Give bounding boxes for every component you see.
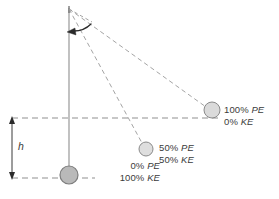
energy-label-top-right-pe: 100% PE [224, 104, 265, 116]
pendulum-energy-diagram: 100% PE 0% KE 50% PE 50% KE 0% PE 100% K… [0, 0, 279, 199]
swing-angle-arrowhead [67, 28, 76, 35]
energy-label-top-right-ke: 0% KE [224, 116, 265, 128]
bob-middle [139, 142, 153, 156]
height-label: h [18, 141, 24, 153]
energy-label-middle: 50% PE 50% KE [159, 142, 194, 165]
energy-label-bottom: 0% PE 100% KE [92, 160, 160, 183]
energy-label-top-right: 100% PE 0% KE [224, 104, 265, 127]
energy-label-bottom-pe: 0% PE [92, 160, 160, 172]
bob-bottom [60, 166, 78, 184]
bob-top-right [204, 102, 220, 118]
energy-unit-token: PE [181, 142, 194, 153]
energy-label-middle-ke: 50% KE [159, 154, 194, 166]
energy-unit-token: PE [147, 160, 160, 171]
energy-unit-token: KE [181, 154, 194, 165]
energy-unit-token: KE [241, 116, 254, 127]
swing-line-to-middle-bob [69, 9, 142, 143]
energy-unit-token: PE [251, 104, 264, 115]
height-arrow-head-up [9, 116, 15, 124]
energy-label-middle-pe: 50% PE [159, 142, 194, 154]
height-arrow-head-down [9, 172, 15, 180]
swing-line-to-top-right-bob [69, 9, 206, 107]
energy-label-bottom-ke: 100% KE [92, 172, 160, 184]
swing-angle-arc [74, 24, 91, 31]
energy-unit-token: KE [147, 172, 160, 183]
